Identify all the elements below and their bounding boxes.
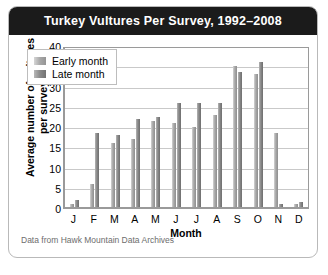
legend-item-early: Early month: [34, 54, 108, 67]
bar-late: [279, 204, 283, 208]
month-bar-group: [268, 47, 288, 208]
bar-late: [299, 202, 303, 208]
bar-early: [151, 121, 155, 208]
bar-early: [213, 115, 217, 208]
bar-late: [259, 62, 263, 208]
bar-early: [233, 66, 237, 208]
x-axis-tick-label: F: [84, 213, 105, 227]
chart-title-bar: Turkey Vultures Per Survey, 1992–2008: [9, 7, 317, 35]
x-axis-tick-label: M: [104, 213, 125, 227]
x-axis-tick-label: A: [125, 213, 146, 227]
bar-late: [75, 200, 79, 208]
legend-swatch-icon: [34, 70, 46, 78]
bar-late: [95, 133, 99, 208]
month-bar-group: [248, 47, 268, 208]
bar-early: [192, 127, 196, 208]
bar-late: [218, 103, 222, 208]
y-axis-tick-label: 5: [41, 183, 61, 195]
legend-swatch-icon: [34, 57, 46, 65]
y-axis-tick-label: 15: [41, 142, 61, 154]
month-bar-group: [146, 47, 166, 208]
x-axis-tick-label: O: [248, 213, 269, 227]
x-axis-tick-label: J: [186, 213, 207, 227]
legend-item-late: Late month: [34, 67, 108, 80]
bar-early: [131, 139, 135, 208]
y-axis-tick-label: 10: [41, 163, 61, 175]
bar-early: [172, 123, 176, 208]
x-axis-tick-label: M: [145, 213, 166, 227]
legend-label: Early month: [52, 55, 108, 67]
x-axis-tick-label: N: [268, 213, 289, 227]
bar-late: [136, 119, 140, 208]
bar-early: [70, 204, 74, 208]
month-bar-group: [289, 47, 309, 208]
chart-legend: Early month Late month: [27, 49, 117, 85]
month-bar-group: [207, 47, 227, 208]
source-note: Data from Hawk Mountain Data Archives: [21, 235, 174, 245]
y-axis-tick-label: 0: [41, 203, 61, 215]
x-axis-tick-label: J: [166, 213, 187, 227]
y-axis-tick-label: 20: [41, 122, 61, 134]
bar-late: [197, 103, 201, 208]
bar-early: [274, 133, 278, 208]
month-bar-group: [187, 47, 207, 208]
bar-late: [156, 117, 160, 208]
legend-label: Late month: [52, 68, 105, 80]
bar-early: [254, 74, 258, 208]
y-axis-tick-label: 25: [41, 102, 61, 114]
x-axis-tick-label: A: [207, 213, 228, 227]
month-bar-group: [166, 47, 186, 208]
bar-early: [90, 184, 94, 208]
bar-early: [111, 143, 115, 208]
chart-figure: Turkey Vultures Per Survey, 1992–2008 Av…: [8, 6, 318, 258]
x-axis-tick-label: S: [227, 213, 248, 227]
page-title: Turkey Vultures Per Survey, 1992–2008: [44, 14, 282, 28]
month-bar-group: [125, 47, 145, 208]
bar-early: [294, 204, 298, 208]
x-axis-tick-label: D: [289, 213, 310, 227]
bar-late: [116, 135, 120, 208]
x-axis-tick-label: J: [63, 213, 84, 227]
month-bar-group: [227, 47, 247, 208]
bar-late: [177, 103, 181, 208]
bar-late: [238, 72, 242, 208]
plot-area-wrapper: Average number of vultures per survey 05…: [9, 35, 317, 259]
x-axis-ticks: JFMAMJJASOND: [63, 213, 309, 227]
